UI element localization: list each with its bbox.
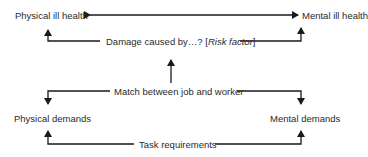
node-damage-caused-by: Damage caused by…? [Risk factor] bbox=[106, 36, 255, 47]
arrow-match-to-mental-demands bbox=[237, 91, 301, 104]
node-physical-demands: Physical demands bbox=[14, 113, 91, 124]
damage-bracket: ] bbox=[253, 36, 256, 47]
node-mental-demands: Mental demands bbox=[270, 113, 340, 124]
arrow-task-to-mental-demands bbox=[215, 131, 301, 144]
node-physical-ill-health: Physical ill health bbox=[15, 10, 88, 21]
node-match-between-job-and-worker: Match between job and worker bbox=[114, 86, 243, 97]
arrow-damage-to-physical bbox=[48, 30, 100, 41]
risk-factor-label: Risk factor bbox=[208, 36, 253, 47]
arrow-task-to-physical-demands bbox=[48, 131, 134, 144]
node-task-requirements: Task requirements bbox=[139, 139, 217, 150]
damage-label: Damage caused by…? [ bbox=[106, 36, 208, 47]
node-mental-ill-health: Mental ill health bbox=[302, 10, 368, 21]
arrow-match-to-physical-demands bbox=[48, 91, 110, 104]
